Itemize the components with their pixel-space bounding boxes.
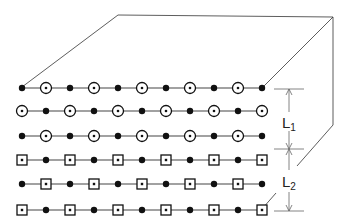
filled-site-icon bbox=[91, 108, 97, 114]
filled-site-icon bbox=[187, 207, 193, 213]
filled-site-icon bbox=[163, 85, 169, 91]
lattice-row bbox=[19, 179, 265, 189]
filled-site-icon bbox=[259, 133, 265, 139]
filled-site-icon bbox=[19, 85, 25, 91]
circled-dot-icon bbox=[137, 83, 148, 94]
circled-dot-icon bbox=[89, 131, 100, 142]
boxed-dot-icon bbox=[233, 179, 243, 189]
circled-dot-icon bbox=[41, 83, 52, 94]
filled-site-icon bbox=[163, 181, 169, 187]
filled-site-icon bbox=[211, 133, 217, 139]
filled-site-icon bbox=[139, 207, 145, 213]
circled-dot-icon bbox=[209, 106, 220, 117]
boxed-dot-icon bbox=[161, 155, 171, 165]
filled-site-icon bbox=[115, 85, 121, 91]
filled-site-icon bbox=[187, 108, 193, 114]
filled-site-icon bbox=[235, 207, 241, 213]
filled-site-icon bbox=[67, 133, 73, 139]
boxed-dot-icon bbox=[89, 179, 99, 189]
boxed-dot-icon bbox=[137, 179, 147, 189]
boxed-dot-icon bbox=[113, 205, 123, 215]
filled-site-icon bbox=[211, 85, 217, 91]
filled-site-icon bbox=[43, 207, 49, 213]
filled-site-icon bbox=[115, 181, 121, 187]
lattice-row bbox=[17, 106, 268, 117]
boxed-dot-icon bbox=[17, 205, 27, 215]
circled-dot-icon bbox=[137, 131, 148, 142]
lattice-rows bbox=[17, 83, 268, 216]
filled-site-icon bbox=[259, 85, 265, 91]
boxed-dot-icon bbox=[113, 155, 123, 165]
boxed-dot-icon bbox=[65, 205, 75, 215]
filled-site-icon bbox=[139, 108, 145, 114]
boxed-dot-icon bbox=[209, 205, 219, 215]
filled-site-icon bbox=[91, 207, 97, 213]
circled-dot-icon bbox=[233, 131, 244, 142]
filled-site-icon bbox=[259, 181, 265, 187]
filled-site-icon bbox=[235, 157, 241, 163]
filled-site-icon bbox=[43, 157, 49, 163]
filled-site-icon bbox=[211, 181, 217, 187]
filled-site-icon bbox=[163, 133, 169, 139]
circled-dot-icon bbox=[233, 83, 244, 94]
layered-lattice-diagram: L1 L2 bbox=[0, 0, 347, 224]
lattice-row bbox=[19, 83, 265, 94]
circled-dot-icon bbox=[113, 106, 124, 117]
circled-dot-icon bbox=[161, 106, 172, 117]
lattice-row bbox=[17, 205, 267, 215]
boxed-dot-icon bbox=[65, 155, 75, 165]
filled-site-icon bbox=[91, 157, 97, 163]
lattice-row bbox=[19, 131, 265, 142]
filled-site-icon bbox=[139, 157, 145, 163]
filled-site-icon bbox=[187, 157, 193, 163]
circled-dot-icon bbox=[17, 106, 28, 117]
label-L2: L2 bbox=[282, 173, 296, 192]
boxed-dot-icon bbox=[257, 155, 267, 165]
circled-dot-icon bbox=[257, 106, 268, 117]
boxed-dot-icon bbox=[41, 179, 51, 189]
filled-site-icon bbox=[19, 181, 25, 187]
label-L1: L1 bbox=[282, 114, 296, 133]
circled-dot-icon bbox=[65, 106, 76, 117]
circled-dot-icon bbox=[89, 83, 100, 94]
filled-site-icon bbox=[43, 108, 49, 114]
filled-site-icon bbox=[67, 85, 73, 91]
dimension-markers: L1 L2 bbox=[274, 89, 304, 211]
filled-site-icon bbox=[19, 133, 25, 139]
filled-site-icon bbox=[235, 108, 241, 114]
circled-dot-icon bbox=[185, 83, 196, 94]
boxed-dot-icon bbox=[17, 155, 27, 165]
filled-site-icon bbox=[67, 181, 73, 187]
lattice-row bbox=[17, 155, 267, 165]
boxed-dot-icon bbox=[257, 205, 267, 215]
circled-dot-icon bbox=[185, 131, 196, 142]
circled-dot-icon bbox=[41, 131, 52, 142]
boxed-dot-icon bbox=[185, 179, 195, 189]
boxed-dot-icon bbox=[209, 155, 219, 165]
boxed-dot-icon bbox=[161, 205, 171, 215]
filled-site-icon bbox=[115, 133, 121, 139]
